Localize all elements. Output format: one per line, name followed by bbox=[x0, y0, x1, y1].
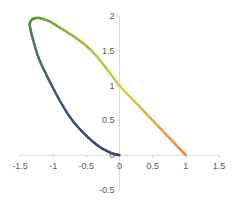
x-tick-label: -1.5 bbox=[12, 161, 28, 171]
y-tick-label: 1 bbox=[109, 81, 114, 91]
y-tick-labels: -0.500.511.52 bbox=[99, 11, 115, 195]
y-tick-label: 0 bbox=[109, 150, 114, 160]
y-tick-label: 0.5 bbox=[102, 115, 115, 125]
x-tick-label: -0.5 bbox=[79, 161, 95, 171]
x-tick-label: -1 bbox=[49, 161, 57, 171]
chart: -1.5-1-0.500.511.5 -0.500.511.52 bbox=[0, 0, 235, 202]
y-tick-label: 2 bbox=[109, 11, 114, 21]
x-tick-labels: -1.5-1-0.500.511.5 bbox=[12, 161, 225, 171]
x-tick-label: 0.5 bbox=[146, 161, 159, 171]
x-tick-label: 0 bbox=[117, 161, 122, 171]
y-tick-label: -0.5 bbox=[99, 185, 115, 195]
curve-series bbox=[30, 18, 186, 155]
x-tick-label: 1.5 bbox=[213, 161, 226, 171]
x-tick-label: 1 bbox=[183, 161, 188, 171]
y-tick-label: 1.5 bbox=[102, 46, 115, 56]
